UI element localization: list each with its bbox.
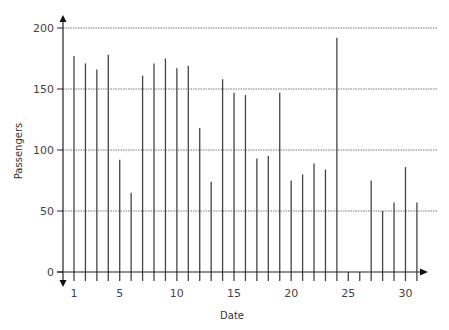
y-tick-labels: 050100150200 [33,22,54,279]
x-tick-label: 15 [227,287,241,300]
x-tick-label: 20 [284,287,298,300]
axes [57,15,428,287]
y-tick-label: 50 [40,205,54,218]
y-axis-up-arrow-icon [60,15,67,22]
x-tick-labels: 151015202530 [71,287,413,300]
x-tick-label: 30 [398,287,412,300]
y-tick-label: 100 [33,144,54,157]
y-axis-label: Passengers [13,123,24,179]
y-tick-label: 0 [47,266,54,279]
x-tick-label: 5 [116,287,123,300]
y-axis-down-arrow-icon [60,280,67,287]
x-tick-label: 1 [71,287,78,300]
x-axis-label: Date [220,310,244,321]
x-tick-label: 10 [170,287,184,300]
y-tick-label: 200 [33,22,54,35]
y-tick-label: 150 [33,83,54,96]
bars [74,38,417,281]
x-tick-label: 25 [341,287,355,300]
x-axis-arrow-icon [420,269,428,276]
bar-chart: 050100150200 151015202530 Date Passenger… [0,0,449,330]
